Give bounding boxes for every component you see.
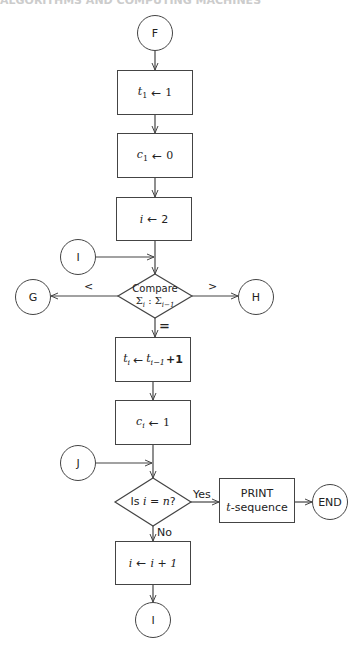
- compare-expression: Σi : Σi−1: [118, 295, 192, 311]
- i-rhs: 2: [161, 213, 168, 226]
- equal-label: =: [159, 318, 170, 333]
- print-sequence-label: t-sequence: [226, 501, 287, 515]
- connector-j-label: J: [76, 457, 79, 470]
- ci-rhs: 1: [163, 416, 170, 429]
- yes-label: Yes: [193, 488, 211, 501]
- ti-lhs: ti: [123, 352, 130, 367]
- assign-arrow: ←: [149, 416, 159, 430]
- ti-rhs-suffix: +1: [166, 353, 183, 366]
- connector-h-label: H: [252, 291, 260, 304]
- inc-lhs: i: [129, 557, 133, 570]
- connector-i-exit: I: [135, 602, 171, 638]
- connector-i-exit-label: I: [151, 614, 154, 627]
- process-box-c1-init: c1 ← 0: [117, 133, 193, 178]
- t1-rhs: 1: [165, 86, 172, 99]
- process-box-ci-set: ci ← 1: [115, 400, 191, 445]
- assign-arrow: ←: [151, 86, 161, 100]
- c1-rhs: 0: [166, 149, 173, 162]
- i-lhs: i: [140, 213, 144, 226]
- is-n-decision-label: Is i = n?: [115, 495, 191, 508]
- connector-h: H: [238, 279, 274, 315]
- t1-lhs: t1: [138, 85, 148, 100]
- print-t-sequence-box: PRINT t-sequence: [219, 478, 295, 523]
- process-box-ti-increment: ti ← ti−1 +1: [115, 337, 191, 382]
- process-box-i-increment: i ← i + 1: [115, 541, 191, 585]
- connector-g-label: G: [29, 291, 38, 304]
- connector-f-label: F: [152, 27, 158, 40]
- c1-lhs: c1: [137, 148, 148, 163]
- process-box-t1-init: t1 ← 1: [117, 70, 193, 115]
- assign-arrow: ←: [152, 149, 162, 163]
- greater-than-label: >: [208, 280, 217, 293]
- print-label: PRINT: [241, 487, 273, 501]
- connector-i-entry-label: I: [76, 251, 79, 264]
- inc-rhs: i + 1: [150, 557, 177, 570]
- connector-j: J: [60, 445, 96, 481]
- no-label: No: [157, 526, 172, 539]
- assign-arrow: ←: [133, 353, 143, 367]
- process-box-i-init: i ← 2: [116, 197, 192, 241]
- connector-end-label: END: [318, 496, 342, 509]
- connector-f: F: [137, 15, 173, 51]
- compare-decision-label: Compare Σi : Σi−1: [118, 283, 192, 311]
- assign-arrow: ←: [147, 212, 157, 226]
- less-than-label: <: [84, 280, 93, 293]
- connector-g: G: [15, 279, 51, 315]
- connector-end: END: [312, 484, 348, 520]
- assign-arrow: ←: [136, 556, 146, 570]
- compare-title: Compare: [118, 283, 192, 295]
- connector-i-entry: I: [60, 239, 96, 275]
- ti-rhs: ti−1: [146, 352, 165, 367]
- ci-lhs: ci: [136, 415, 145, 430]
